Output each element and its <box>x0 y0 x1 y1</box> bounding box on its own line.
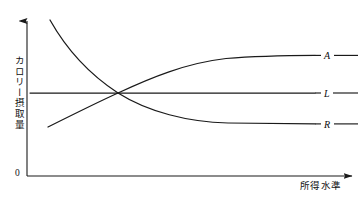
x-axis-label: 所得水準 <box>300 178 342 192</box>
curve-l-label: L <box>323 88 330 99</box>
figure-container: A L R カロリー摂取量 所得水準 0 <box>0 0 363 201</box>
y-axis-label: カロリー摂取量 <box>9 56 24 130</box>
curve-r <box>50 20 315 124</box>
curve-a <box>48 55 315 127</box>
plot-area: A L R <box>0 0 363 201</box>
curve-a-label: A <box>323 50 331 61</box>
curve-r-label: R <box>323 119 330 130</box>
origin-label: 0 <box>15 168 20 178</box>
